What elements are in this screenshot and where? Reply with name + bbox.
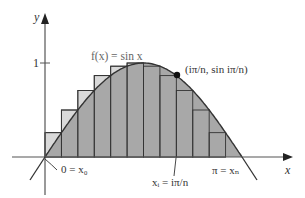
xi-pointer: [174, 158, 176, 176]
xi-label: xᵢ = iπ/n: [152, 177, 188, 188]
origin-label: 0 = x₀: [61, 164, 88, 175]
end-label: π = xₙ: [212, 165, 240, 176]
riemann-sum-diagram: [0, 0, 305, 198]
x-axis-arrow-icon: [283, 153, 293, 161]
y-axis-label: y: [34, 11, 39, 23]
curve-extension-left: [30, 157, 45, 180]
function-label: f(x) = sin x: [91, 51, 143, 63]
y-axis-arrow-icon: [41, 13, 49, 24]
origin-pointer: [45, 159, 57, 170]
curve-extension-right: [242, 157, 257, 180]
point-label: (iπ/n, sin iπ/n): [185, 64, 248, 75]
x-axis-label: x: [285, 164, 290, 176]
sample-point-dot: [174, 72, 180, 78]
riemann-rectangles: [45, 63, 242, 157]
y-tick-label: 1: [33, 57, 39, 69]
